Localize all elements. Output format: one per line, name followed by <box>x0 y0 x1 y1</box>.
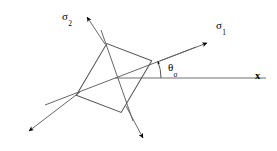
x-axis-label: x <box>255 66 260 82</box>
figure-canvas <box>0 0 277 151</box>
sigma2-label: σ2 <box>62 7 72 26</box>
sigma1-arrow-lower-left <box>29 92 80 131</box>
sigma2-arrow-lower-right <box>126 106 143 138</box>
sigma2-arrow-upper-left <box>87 17 105 44</box>
stress-element-figure: σ1 σ2 θσ x <box>0 0 277 151</box>
sigma1-subscript: 1 <box>222 28 226 37</box>
theta-subscript: σ <box>174 70 178 79</box>
sigma1-label: σ1 <box>216 16 226 35</box>
theta-symbol: θ <box>168 61 173 73</box>
sigma2-axis-line <box>101 30 133 121</box>
theta-angle-arc <box>158 61 161 78</box>
sigma2-subscript: 2 <box>68 19 72 28</box>
x-axis-symbol: x <box>255 70 260 81</box>
theta-angle-label: θσ <box>168 58 177 77</box>
